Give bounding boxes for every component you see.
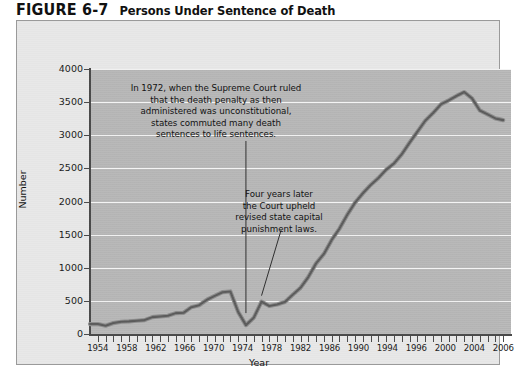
annotation-leader-line-2	[262, 230, 282, 296]
annotation-1972-ruling: In 1972, when the Supreme Court ruled th…	[105, 83, 327, 141]
annotation-1976-upheld: Four years later the Court upheld revise…	[213, 189, 345, 235]
figure-container: FIGURE 6-7 Persons Under Sentence of Dea…	[0, 0, 516, 382]
chart-panel: 05001000150020002500300035004000 1954195…	[16, 20, 500, 365]
figure-number: FIGURE 6-7	[16, 1, 109, 19]
figure-heading: FIGURE 6-7 Persons Under Sentence of Dea…	[16, 1, 335, 19]
x-tick	[503, 336, 504, 342]
figure-title: Persons Under Sentence of Death	[119, 4, 335, 18]
